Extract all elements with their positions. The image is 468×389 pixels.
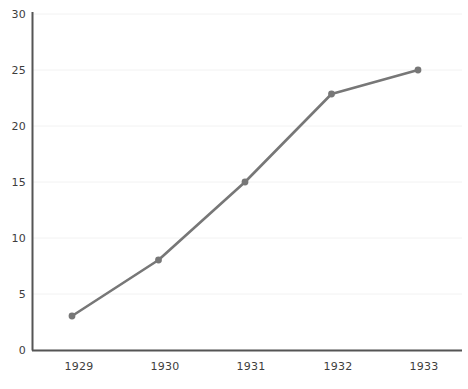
- data-point: [69, 313, 76, 320]
- data-point: [242, 179, 249, 186]
- data-series-1: [69, 67, 422, 320]
- x-tick-label-1933: 1933: [410, 360, 439, 373]
- x-tick-label-1932: 1932: [324, 360, 353, 373]
- x-tick-label-1930: 1930: [151, 360, 180, 373]
- y-tick-label-25: 25: [2, 64, 26, 77]
- y-tick-label-15: 15: [2, 176, 26, 189]
- y-tick-label-0: 0: [2, 344, 26, 357]
- data-point: [328, 91, 335, 98]
- y-tick-label-10: 10: [2, 232, 26, 245]
- data-point: [415, 67, 422, 74]
- y-tick-label-5: 5: [2, 288, 26, 301]
- data-point: [155, 257, 162, 264]
- x-tick-label-1931: 1931: [237, 360, 266, 373]
- x-tick-label-1929: 1929: [65, 360, 94, 373]
- y-tick-label-20: 20: [2, 120, 26, 133]
- line-chart: 30 25 20 15 10 5 0 1929 1930 1931 1932 1…: [0, 0, 468, 389]
- y-tick-label-30: 30: [2, 8, 26, 21]
- plot-area: [0, 0, 468, 389]
